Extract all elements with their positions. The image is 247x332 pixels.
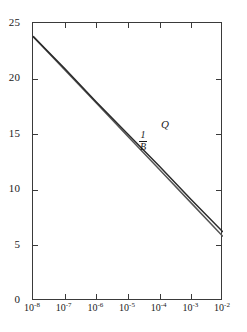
- x-tick-exponent: -2: [224, 301, 230, 309]
- x-tick-label: 10-8: [24, 303, 40, 313]
- fraction-denominator: B: [139, 142, 147, 152]
- x-tick-label: 10-5: [119, 303, 135, 313]
- x-tick-exponent: -8: [34, 301, 40, 309]
- x-tick-label: 10-3: [182, 303, 198, 313]
- y-tick-label: 0: [14, 294, 20, 305]
- x-tick-mantissa: 10: [214, 302, 224, 313]
- data-curves: [33, 23, 223, 301]
- x-tick-mantissa: 10: [56, 302, 66, 313]
- x-tick-mantissa: 10: [24, 302, 34, 313]
- x-tick-exponent: -5: [129, 301, 135, 309]
- x-tick-mantissa: 10: [119, 302, 129, 313]
- x-tick-mantissa: 10: [151, 302, 161, 313]
- y-tick-label: 10: [9, 183, 20, 194]
- y-tick-label: 15: [9, 128, 20, 139]
- plot-area: Q 1 B: [32, 22, 222, 300]
- x-tick-exponent: -3: [192, 301, 198, 309]
- x-tick-mantissa: 10: [87, 302, 97, 313]
- y-tick-label: 25: [9, 17, 20, 28]
- series-label-Q: Q: [161, 119, 169, 130]
- x-tick-label: 10-6: [87, 303, 103, 313]
- x-tick-label: 10-2: [214, 303, 230, 313]
- series-label-1-over-B: 1 B: [139, 130, 147, 152]
- x-tick-label: 10-7: [56, 303, 72, 313]
- x-tick-label: 10-4: [151, 303, 167, 313]
- x-tick-exponent: -6: [97, 301, 103, 309]
- chart-figure: 25 20 15 10 5 0 10-8 10-7 10-6 10-5 10-4…: [0, 0, 247, 332]
- y-tick-label: 20: [9, 72, 20, 83]
- series-line-Q: [33, 36, 223, 232]
- fraction-numerator: 1: [139, 130, 147, 140]
- x-tick-exponent: -7: [66, 301, 72, 309]
- x-tick-mantissa: 10: [182, 302, 192, 313]
- x-tick-exponent: -4: [161, 301, 167, 309]
- y-tick-label: 5: [14, 239, 20, 250]
